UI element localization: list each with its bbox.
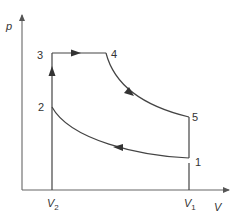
point-3-label: 3 bbox=[37, 49, 43, 61]
v2-label: V2 bbox=[47, 197, 59, 212]
arrow-down-right-icon bbox=[124, 87, 134, 96]
y-axis-label: p bbox=[5, 20, 12, 32]
point-4-label: 4 bbox=[111, 48, 117, 60]
arrow-up-icon bbox=[49, 66, 56, 76]
v1-label: V1 bbox=[184, 197, 196, 212]
point-1-label: 1 bbox=[195, 156, 201, 168]
x-axis-label: V bbox=[214, 201, 223, 213]
pv-diagram: p V 3 4 5 1 2 V2 V1 bbox=[0, 0, 241, 221]
point-5-label: 5 bbox=[192, 111, 198, 123]
point-2-label: 2 bbox=[38, 101, 44, 113]
arrow-left-icon bbox=[113, 144, 123, 151]
arrow-right-icon bbox=[71, 50, 81, 57]
process-1-2-curve bbox=[52, 107, 189, 158]
process-4-5-curve bbox=[106, 53, 189, 117]
